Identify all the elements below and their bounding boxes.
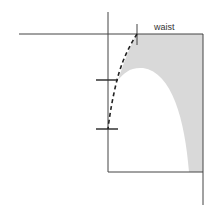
shaded-region — [118, 34, 203, 172]
waist-diagram: waist — [0, 0, 218, 207]
waist-label: waist — [153, 22, 175, 32]
